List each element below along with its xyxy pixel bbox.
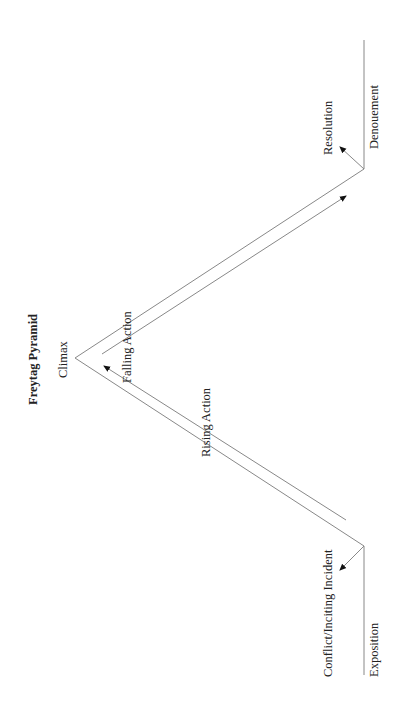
label-falling-action: Falling Action bbox=[120, 311, 135, 383]
label-resolution: Resolution bbox=[321, 101, 336, 155]
falling-action-arrow bbox=[102, 196, 346, 354]
label-denouement: Denouement bbox=[367, 85, 382, 149]
diagram-title: Freytag Pyramid bbox=[26, 314, 41, 405]
label-rising-action: Rising Action bbox=[199, 388, 214, 457]
label-climax: Climax bbox=[56, 341, 71, 378]
rising-action-arrow bbox=[104, 366, 346, 520]
conflict-arrow bbox=[340, 546, 364, 570]
label-exposition: Exposition bbox=[367, 623, 382, 677]
label-conflict: Conflict/Inciting Incident bbox=[321, 550, 336, 677]
resolution-arrow bbox=[340, 147, 364, 169]
